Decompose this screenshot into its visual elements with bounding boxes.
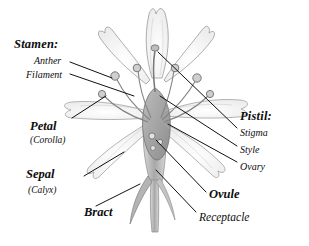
petal-right	[166, 99, 248, 118]
label-petal: Petal	[30, 120, 56, 133]
label-calyx: (Calyx)	[28, 186, 57, 196]
label-sepal: Sepal	[26, 168, 54, 181]
label-stigma: Stigma	[240, 128, 268, 138]
ovule-a	[149, 133, 155, 139]
label-anther: Anther	[34, 56, 61, 66]
anther-left-outer	[111, 72, 119, 80]
label-ovary: Ovary	[240, 162, 265, 172]
ovary-chamber	[143, 88, 171, 160]
anther-right-outer	[193, 74, 201, 82]
leader-bract	[96, 184, 140, 206]
label-pistil-group: Pistil:	[240, 110, 272, 123]
petal-lower-left	[87, 124, 150, 179]
receptacle-stem	[150, 180, 158, 232]
leader-anther	[70, 62, 112, 78]
ovule-c	[151, 146, 156, 151]
bract-leaf	[130, 176, 152, 224]
petal-upper-right	[164, 26, 215, 82]
stigma-head	[151, 45, 159, 51]
label-receptacle: Receptacle	[199, 212, 249, 224]
label-corolla: (Corolla)	[30, 136, 66, 146]
label-bract: Bract	[84, 206, 112, 219]
anther-left-inner	[133, 64, 141, 72]
label-filament: Filament	[26, 70, 62, 80]
anther-far-right	[206, 90, 213, 97]
label-ovule: Ovule	[209, 188, 240, 201]
label-stamen-group: Stamen:	[14, 38, 58, 51]
petal-top-center	[146, 9, 168, 78]
label-style: Style	[240, 145, 259, 155]
